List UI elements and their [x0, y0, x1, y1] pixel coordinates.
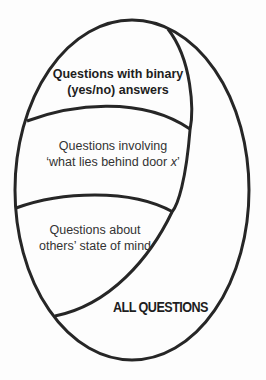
region-door-line2: ‘what lies behind door x’ — [38, 154, 188, 170]
region-binary-line1: Questions with binary — [48, 66, 188, 82]
divider-door-mind — [16, 195, 173, 212]
all-questions-label: ALL QUESTIONS — [113, 299, 208, 315]
region-mind-line2: others’ state of mind — [30, 238, 160, 254]
region-binary-label: Questions with binary (yes/no) answers — [48, 66, 188, 98]
region-door-line2-suffix: ’ — [177, 155, 180, 169]
divider-binary-door — [27, 106, 190, 129]
region-door-line2-prefix: ‘what lies behind door — [46, 155, 170, 169]
diagram-shapes — [0, 0, 266, 380]
region-door-line1: Questions involving — [38, 138, 188, 154]
region-mind-line1: Questions about — [30, 222, 160, 238]
region-binary-line2: (yes/no) answers — [48, 82, 188, 98]
region-mind-label: Questions about others’ state of mind — [30, 222, 160, 254]
region-door-label: Questions involving ‘what lies behind do… — [38, 138, 188, 170]
venn-diagram: Questions with binary (yes/no) answers Q… — [0, 0, 266, 380]
